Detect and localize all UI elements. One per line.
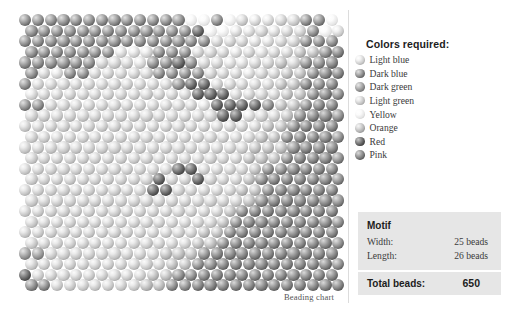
- bead: [115, 279, 127, 291]
- bead: [319, 279, 331, 291]
- total-beads-row: Total beads: 650: [358, 272, 501, 295]
- bead-row: [19, 216, 339, 227]
- total-beads-value: 650: [462, 277, 492, 289]
- bead-row: [19, 56, 339, 67]
- legend-item-label: Dark blue: [370, 68, 408, 79]
- legend-item: Red: [366, 135, 506, 149]
- motif-length-label: Length:: [367, 249, 397, 263]
- bead: [281, 279, 293, 291]
- bead: [128, 279, 140, 291]
- bead-row: [19, 226, 339, 237]
- bead: [332, 279, 344, 291]
- bead: [89, 279, 101, 291]
- bead-row: [19, 25, 339, 36]
- bead: [243, 279, 255, 291]
- bead-row: [19, 14, 339, 25]
- bead-row: [19, 258, 339, 269]
- bead-row: [19, 35, 339, 46]
- legend-item: Dark blue: [366, 67, 506, 81]
- legend-bead-icon: [355, 137, 365, 147]
- legend-item-label: Orange: [370, 122, 398, 133]
- legend-item-label: Dark green: [370, 81, 413, 92]
- bead-row: [19, 194, 339, 205]
- bead-row: [19, 78, 339, 89]
- bead-row: [19, 67, 339, 78]
- motif-summary-box: Motif Width: 25 beads Length: 26 beads T…: [358, 212, 501, 295]
- legend-item-label: Light blue: [370, 54, 410, 65]
- bead-row: [19, 99, 339, 110]
- bead-row: [19, 237, 339, 248]
- legend-item-list: Light blueDark blueDark greenLight green…: [366, 53, 506, 162]
- bead-grid: [19, 14, 339, 290]
- legend-item-label: Red: [370, 136, 385, 147]
- bead: [25, 279, 37, 291]
- chart-caption: Beading chart: [284, 292, 334, 302]
- legend-item: Light blue: [366, 53, 506, 67]
- legend-bead-icon: [355, 150, 365, 160]
- bead: [217, 279, 229, 291]
- bead-row: [19, 120, 339, 131]
- legend-bead-icon: [355, 109, 365, 119]
- bead-row: [19, 163, 339, 174]
- legend-item: Light green: [366, 94, 506, 108]
- motif-length-row: Length: 26 beads: [367, 249, 492, 263]
- bead-row: [19, 173, 339, 184]
- total-beads-label: Total beads:: [367, 278, 425, 289]
- chart-panel: Beading chart: [0, 0, 348, 313]
- bead: [204, 279, 216, 291]
- bead: [230, 279, 242, 291]
- bead: [153, 279, 165, 291]
- legend-item: Yellow: [366, 107, 506, 121]
- bead: [51, 279, 63, 291]
- bead: [294, 279, 306, 291]
- legend-item: Dark green: [366, 80, 506, 94]
- legend-item: Pink: [366, 148, 506, 162]
- bead-row: [19, 184, 339, 195]
- bead: [307, 279, 319, 291]
- bead-row: [19, 109, 339, 120]
- legend-bead-icon: [355, 55, 365, 65]
- bead-row: [19, 131, 339, 142]
- motif-width-row: Width: 25 beads: [367, 235, 492, 249]
- legend-title: Colors required:: [366, 38, 506, 50]
- beading-chart-page: Beading chart Colors required: Light blu…: [0, 0, 509, 313]
- legend-item-label: Light green: [370, 95, 415, 106]
- motif-details: Motif Width: 25 beads Length: 26 beads: [358, 212, 501, 270]
- info-panel: Colors required: Light blueDark blueDark…: [349, 0, 509, 313]
- bead-row: [19, 269, 339, 280]
- legend-bead-icon: [355, 82, 365, 92]
- bead-row: [19, 46, 339, 57]
- bead-row: [19, 247, 339, 258]
- bead-row: [19, 88, 339, 99]
- legend-item-label: Pink: [370, 149, 388, 160]
- bead: [64, 279, 76, 291]
- legend-bead-icon: [355, 123, 365, 133]
- bead: [179, 279, 191, 291]
- bead-row: [19, 279, 339, 290]
- motif-heading: Motif: [367, 220, 492, 231]
- colors-legend: Colors required: Light blueDark blueDark…: [366, 38, 506, 162]
- bead-row: [19, 205, 339, 216]
- bead: [38, 279, 50, 291]
- bead: [255, 279, 267, 291]
- bead: [192, 279, 204, 291]
- motif-length-value: 26 beads: [454, 249, 492, 263]
- bead: [77, 279, 89, 291]
- legend-item-label: Yellow: [370, 109, 397, 120]
- bead: [268, 279, 280, 291]
- bead-row: [19, 141, 339, 152]
- bead-row: [19, 152, 339, 163]
- legend-bead-icon: [355, 69, 365, 79]
- bead: [166, 279, 178, 291]
- bead: [102, 279, 114, 291]
- motif-width-label: Width:: [367, 235, 393, 249]
- legend-item: Orange: [366, 121, 506, 135]
- motif-width-value: 25 beads: [454, 235, 492, 249]
- legend-bead-icon: [355, 96, 365, 106]
- bead: [140, 279, 152, 291]
